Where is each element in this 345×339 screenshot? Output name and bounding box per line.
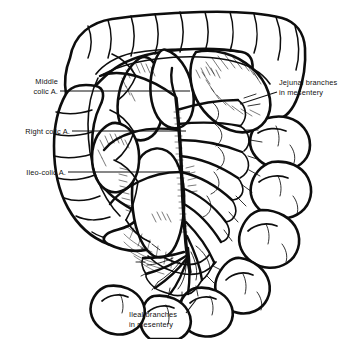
anatomical-figure: Middle colic A. Right colic A. Ileo-coli… — [0, 0, 345, 339]
label-right-colic-line1: Right colic A. — [25, 127, 70, 136]
label-ileo-colic-line1: Ileo-colic A. — [26, 168, 66, 177]
figure-canvas: Middle colic A. Right colic A. Ileo-coli… — [0, 0, 345, 339]
label-ileal-branches-line1: Ileal branches — [129, 310, 177, 319]
label-jejunal-branches-line1: Jejunal branches — [279, 78, 337, 87]
label-middle-colic-line2: colic A. — [33, 87, 58, 96]
label-middle-colic-line1: Middle — [35, 77, 58, 86]
label-ileal-branches-line2: in mesentery — [129, 320, 173, 329]
label-jejunal-branches-line2: in mesentery — [279, 88, 323, 97]
